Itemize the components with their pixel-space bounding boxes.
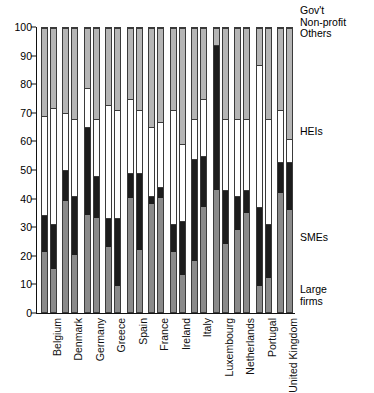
stacked-bar[interactable] <box>256 27 263 313</box>
bar-segment-large <box>51 269 56 312</box>
bar-segment-sme <box>137 173 142 250</box>
x-axis-label-netherlands: Netherlands <box>245 318 256 375</box>
plot-area <box>36 27 295 314</box>
bar-group <box>62 27 78 313</box>
bar-segment-sme <box>266 224 271 278</box>
stacked-bar[interactable] <box>179 27 186 313</box>
bar-segment-sme <box>171 224 176 252</box>
x-axis-label-germany: Germany <box>95 318 106 361</box>
bar-segment-gov <box>235 28 240 119</box>
stacked-bar[interactable] <box>71 27 78 313</box>
bar-segment-gov <box>192 28 197 119</box>
legend-label-smes: SMEs <box>300 232 328 244</box>
bar-segment-sme <box>244 190 249 213</box>
bar-segment-sme <box>223 190 228 244</box>
legend-label-gov: Gov't Non-profit Others <box>300 5 346 40</box>
y-axis-tick-label: 0 <box>6 308 32 318</box>
bar-segment-hei <box>115 110 120 218</box>
bar-segment-large <box>287 210 292 312</box>
stacked-bar[interactable] <box>105 27 112 313</box>
stacked-bar[interactable] <box>222 27 229 313</box>
bar-segment-hei <box>137 110 142 172</box>
stacked-bar[interactable] <box>243 27 250 313</box>
bar-segment-hei <box>42 116 47 215</box>
bar-segment-hei <box>94 119 99 176</box>
bar-segment-large <box>192 261 197 312</box>
bar-group <box>41 27 57 313</box>
stacked-bar[interactable] <box>114 27 121 313</box>
bar-segment-hei <box>171 110 176 224</box>
bar-group <box>170 27 186 313</box>
bar-segment-hei <box>51 108 56 224</box>
stacked-bar[interactable] <box>200 27 207 313</box>
y-axis-tick-label: 30 <box>6 222 32 232</box>
y-axis-tick-label: 40 <box>6 194 32 204</box>
bar-group <box>213 27 229 313</box>
stacked-bar[interactable] <box>265 27 272 313</box>
stacked-bar[interactable] <box>148 27 155 313</box>
stacked-bar[interactable] <box>191 27 198 313</box>
bar-segment-large <box>137 250 142 312</box>
bar-segment-sme <box>201 156 206 207</box>
x-axis-label-france: France <box>159 318 170 351</box>
y-axis-tick-label: 20 <box>6 251 32 261</box>
stacked-bar[interactable] <box>50 27 57 313</box>
bar-segment-hei <box>287 139 292 162</box>
bar-group <box>256 27 272 313</box>
x-axis-label-spain: Spain <box>138 318 149 345</box>
x-axis-label-denmark: Denmark <box>73 318 84 361</box>
bar-segment-hei <box>72 119 77 196</box>
bar-segment-gov <box>63 28 68 113</box>
y-axis-tick-label: 80 <box>6 79 32 89</box>
stacked-bar[interactable] <box>234 27 241 313</box>
bar-segment-large <box>72 255 77 312</box>
bar-segment-large <box>223 244 228 312</box>
stacked-bar[interactable] <box>127 27 134 313</box>
bar-group <box>148 27 164 313</box>
bar-segment-sme <box>192 159 197 261</box>
stacked-bar[interactable] <box>213 27 220 313</box>
bar-segment-sme <box>115 218 120 286</box>
bar-segment-gov <box>94 28 99 119</box>
stacked-bar[interactable] <box>136 27 143 313</box>
bar-segment-gov <box>201 28 206 99</box>
bar-segment-hei <box>85 88 90 128</box>
x-axis-label-italy: Italy <box>202 318 213 337</box>
bar-segment-large <box>244 213 249 312</box>
bar-segment-hei <box>192 119 197 159</box>
bar-segment-gov <box>149 28 154 127</box>
bar-segment-sme <box>72 196 77 256</box>
y-axis-tick-label: 60 <box>6 136 32 146</box>
bar-segment-large <box>128 198 133 312</box>
bar-segment-gov <box>51 28 56 108</box>
bar-group <box>191 27 207 313</box>
bar-segment-gov <box>214 28 219 45</box>
bar-segment-gov <box>128 28 133 99</box>
stacked-bar[interactable] <box>62 27 69 313</box>
stacked-bar[interactable] <box>277 27 284 313</box>
y-axis-tick-label: 10 <box>6 279 32 289</box>
bar-segment-gov <box>137 28 142 110</box>
bar-segment-gov <box>158 28 163 122</box>
bar-group <box>234 27 250 313</box>
bar-segment-hei <box>180 144 185 221</box>
bar-segment-gov <box>72 28 77 119</box>
bar-group <box>127 27 143 313</box>
bar-segment-sme <box>257 207 262 287</box>
bar-segment-gov <box>171 28 176 110</box>
bar-segment-hei <box>201 99 206 156</box>
stacked-bar[interactable] <box>170 27 177 313</box>
stacked-bar[interactable] <box>286 27 293 313</box>
bar-group <box>105 27 121 313</box>
bar-segment-hei <box>223 119 228 190</box>
bar-segment-hei <box>149 127 154 195</box>
bar-segment-large <box>171 252 176 312</box>
stacked-bar[interactable] <box>157 27 164 313</box>
stacked-bar[interactable] <box>84 27 91 313</box>
bar-segment-hei <box>158 122 163 187</box>
stacked-bar[interactable] <box>93 27 100 313</box>
bar-segment-large <box>257 286 262 312</box>
stacked-bar[interactable] <box>41 27 48 313</box>
legend-label-heis: HEIs <box>300 126 323 138</box>
x-axis-label-greece: Greece <box>116 318 127 352</box>
